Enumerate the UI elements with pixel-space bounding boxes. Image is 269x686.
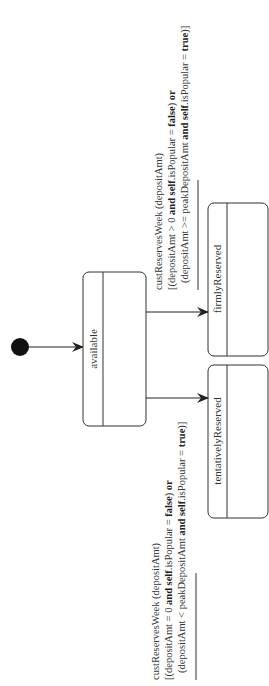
event-label: custReservesWeek (depositAmt) — [150, 542, 162, 680]
state-available-label: available — [87, 329, 99, 369]
event-label: custReservesWeek (depositAmt) — [153, 152, 165, 290]
state-tentatively-reserved[interactable]: tentativelyReserved — [208, 365, 268, 518]
initial-state-dot — [11, 338, 29, 356]
svg-text:[(depositAmt = 0 and self.isPo: [(depositAmt = 0 and self.isPopular = fa… — [163, 480, 175, 680]
state-diagram: available firmlyReserved tentativelyRese… — [0, 0, 269, 686]
state-available[interactable]: available — [83, 272, 146, 426]
transition-label-tentatively-reserved: custReservesWeek (depositAmt) [(depositA… — [150, 422, 196, 680]
svg-text:custReservesWeek (depositAmt): custReservesWeek (depositAmt) — [150, 542, 162, 680]
svg-text:[(depositAmt > 0 and self.isPo: [(depositAmt > 0 and self.isPopular = fa… — [166, 90, 178, 290]
state-firmly-reserved-label: firmlyReserved — [211, 244, 223, 313]
svg-text:(depositAmt < peakDepositAmt: (depositAmt < peakDepositAmt and self.is… — [176, 422, 188, 673]
svg-text:custReservesWeek (depositAmt): custReservesWeek (depositAmt) — [153, 152, 165, 290]
state-tentatively-reserved-label: tentativelyReserved — [211, 397, 223, 485]
svg-text:(depositAmt >= peakDepositAmt: (depositAmt >= peakDepositAmt and self.i… — [179, 26, 191, 283]
state-firmly-reserved[interactable]: firmlyReserved — [208, 203, 268, 356]
transition-label-firmly-reserved: custReservesWeek (depositAmt) [(depositA… — [153, 26, 198, 290]
